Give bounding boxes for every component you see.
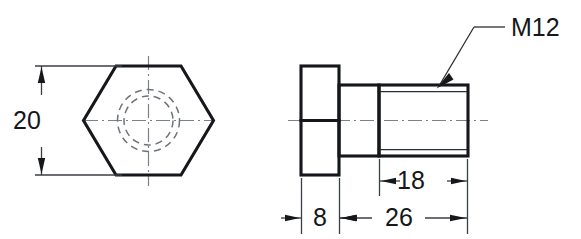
dimension-text-shank-length: 26 <box>385 203 413 231</box>
arrowhead-26-left <box>341 215 357 222</box>
dimension-text-head-thickness: 8 <box>313 203 327 231</box>
arrowhead-20-bottom <box>38 158 45 174</box>
technical-drawing-canvas: 20 M12 18 <box>0 0 581 239</box>
arrowhead-18-left <box>381 178 396 185</box>
arrowhead-18-right <box>451 178 466 185</box>
side-view-group: M12 <box>288 13 560 175</box>
horizontal-dimensions-group: 18 8 26 <box>281 159 468 234</box>
arrowhead-20-top <box>38 67 45 83</box>
thread-spec-label: M12 <box>511 13 560 41</box>
arrowhead-26-right <box>450 215 466 222</box>
leader-diagonal <box>439 27 474 86</box>
arrowhead-8-left <box>285 215 300 222</box>
end-view-group: 20 <box>13 56 214 186</box>
dimension-text-thread-length: 18 <box>397 166 425 194</box>
bolt-drawing-svg: 20 M12 18 <box>0 0 581 239</box>
dimension-text-across-flats: 20 <box>13 106 41 134</box>
